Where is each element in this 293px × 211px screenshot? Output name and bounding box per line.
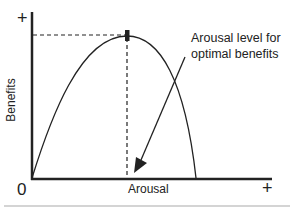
bottom-divider (4, 205, 290, 207)
benefit-curve (32, 36, 196, 178)
origin-label: 0 (17, 181, 26, 198)
x-axis-label: Arousal (128, 183, 169, 195)
annotation-line-1: Arousal level for (191, 30, 281, 46)
annotation-text: Arousal level for optimal benefits (191, 30, 281, 62)
x-axis-plus-label: + (262, 179, 273, 197)
y-axis-plus-label: + (17, 9, 28, 27)
y-axis-label: Benefits (5, 77, 17, 123)
peak-marker (125, 30, 130, 41)
annotation-arrowhead (134, 157, 147, 173)
annotation-line-2: optimal benefits (191, 46, 281, 62)
annotation-arrow-line (141, 57, 185, 160)
arousal-benefits-diagram: + + 0 Arousal Benefits Arousal level for… (0, 0, 293, 211)
